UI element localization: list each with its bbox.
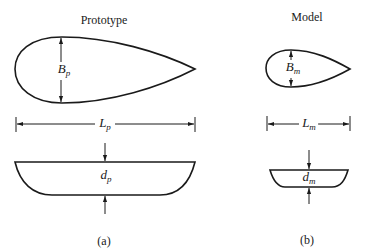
- prototype-title: Prototype: [81, 13, 128, 28]
- prototype-hull-outline: [15, 37, 195, 103]
- model-plan-view: [266, 50, 350, 87]
- model-beam-label: Bm: [284, 60, 302, 78]
- prototype-plan-view: [15, 37, 195, 103]
- prototype-beam-label: Bp: [56, 62, 72, 80]
- prototype-caption: (a): [97, 234, 110, 249]
- model-title: Model: [291, 10, 322, 25]
- length-subscript: p: [106, 122, 111, 132]
- beam-symbol: B: [58, 61, 66, 76]
- beam-subscript: p: [66, 68, 71, 78]
- ship-similarity-figure: Prototype Model Bp Lp dp (a) Bm Lm dm (b…: [0, 0, 368, 250]
- model-hull-outline: [266, 50, 350, 87]
- model-draft-label: dm: [301, 170, 318, 188]
- beam-subscript: m: [294, 66, 301, 76]
- draft-subscript: m: [309, 176, 316, 186]
- draft-subscript: p: [107, 174, 112, 184]
- prototype-draft-label: dp: [99, 168, 114, 186]
- prototype-length-label: Lp: [97, 116, 113, 134]
- length-subscript: m: [309, 122, 316, 132]
- beam-symbol: B: [286, 59, 294, 74]
- model-caption: (b): [300, 233, 314, 248]
- model-length-label: Lm: [300, 116, 318, 134]
